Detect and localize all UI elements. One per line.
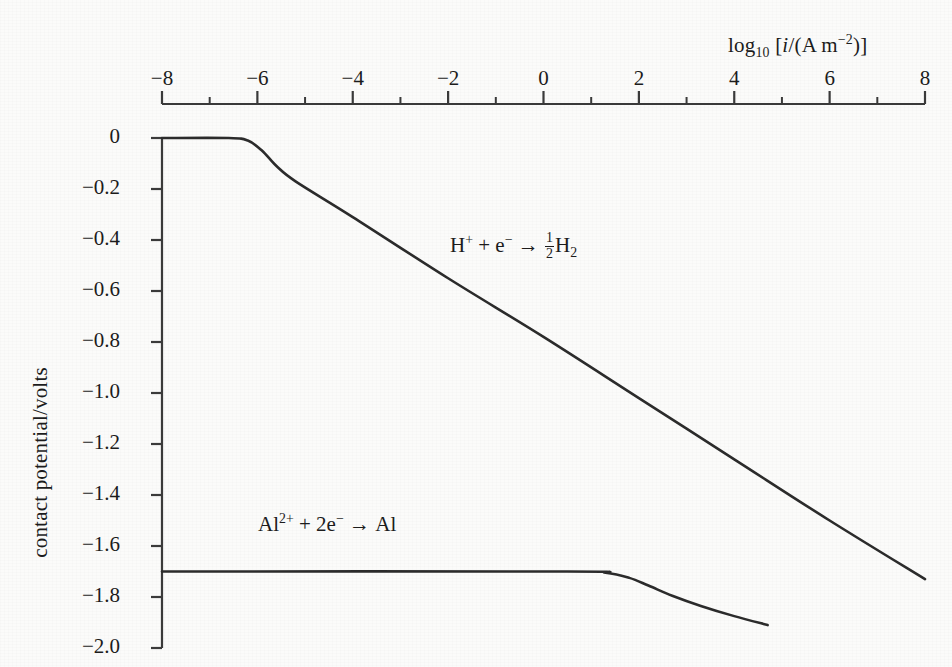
plot-area [0, 0, 952, 667]
chart-figure: log10 [i/(A m−2)] contact potential/volt… [0, 0, 952, 667]
curve-hydrogen-evolution [162, 138, 925, 579]
curves-group [162, 138, 925, 625]
curve-aluminium-deposition [162, 571, 768, 625]
axes-group [151, 91, 925, 648]
